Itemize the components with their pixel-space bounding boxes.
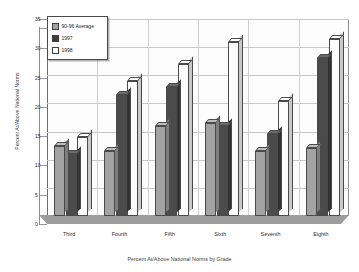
- legend-label: 1998: [62, 47, 73, 53]
- bar-face: [155, 126, 166, 216]
- bar-side: [166, 118, 170, 212]
- bar-side: [289, 93, 293, 212]
- bar-face: [306, 148, 317, 216]
- x-axis-tick-label: Fourth: [112, 231, 128, 237]
- y-axis-title: Percent At/Above National Norms: [14, 36, 20, 186]
- bar-side: [88, 130, 92, 212]
- legend-swatch-icon: [52, 47, 59, 54]
- category-separator: [299, 19, 300, 216]
- x-axis-tick-label: Third: [63, 231, 75, 237]
- plot-floor: [39, 215, 349, 224]
- y-axis-tick-label: 35: [35, 16, 39, 22]
- bar-side: [189, 56, 193, 212]
- bar-face: [54, 146, 65, 216]
- legend-swatch-icon: [52, 23, 59, 30]
- tick-connector: [39, 195, 47, 196]
- bar-face: [255, 151, 266, 216]
- bar-group: [148, 19, 198, 216]
- bar-side: [65, 138, 69, 212]
- bar-side: [266, 144, 270, 212]
- y-axis-tick-label: 10: [35, 162, 39, 168]
- category-separator: [148, 19, 149, 216]
- bar-side: [138, 73, 142, 212]
- bar-side: [228, 118, 232, 212]
- y-axis-tick-label: 30: [35, 45, 39, 51]
- bar-side: [77, 146, 81, 212]
- x-axis-title: Percent At/Above National Norms by Grade: [0, 256, 359, 262]
- bar-side: [239, 34, 243, 212]
- legend-item: 1997: [52, 32, 107, 44]
- bar: [255, 151, 266, 216]
- y-axis-tick-label: 20: [35, 104, 39, 110]
- chart-title-remnant: [150, 0, 270, 9]
- x-axis-tick-label: Eighth: [313, 231, 328, 237]
- bar-side: [278, 127, 282, 212]
- tick-connector: [39, 224, 47, 225]
- legend-label: 1997: [62, 35, 73, 41]
- bar-face: [205, 123, 216, 216]
- bar-face: [104, 151, 115, 216]
- bar: [205, 123, 216, 216]
- category-separator: [198, 19, 199, 216]
- legend-item: 90-96 Average: [52, 20, 107, 32]
- y-axis-tick-label: 0: [35, 221, 39, 227]
- bar-group: [248, 19, 298, 216]
- bar-chart: Percent At/Above National Norms 05101520…: [0, 0, 359, 272]
- category-separator: [248, 19, 249, 216]
- bar: [306, 148, 317, 216]
- bar: [155, 126, 166, 216]
- bar-side: [177, 79, 181, 212]
- chart-legend: 90-96 Average 1997 1998: [47, 16, 108, 60]
- y-axis-tick-label: 15: [35, 133, 39, 139]
- legend-label: 90-96 Average: [62, 23, 94, 29]
- bar-side: [127, 87, 131, 212]
- x-axis-tick-label: Sixth: [214, 231, 226, 237]
- bar-side: [115, 144, 119, 212]
- legend-item: 1998: [52, 44, 107, 56]
- bar-side: [216, 116, 220, 212]
- y-axis-tick-label: 25: [35, 75, 39, 81]
- bar-group: [198, 19, 248, 216]
- bar-side: [317, 141, 321, 212]
- bar-group: [299, 19, 349, 216]
- bar: [104, 151, 115, 216]
- bar-side: [328, 51, 332, 212]
- bar: [54, 146, 65, 216]
- y-axis-tick-label: 5: [35, 192, 39, 198]
- x-axis-tick-label: Fifth: [165, 231, 175, 237]
- bar-side: [340, 31, 344, 212]
- legend-swatch-icon: [52, 35, 59, 42]
- x-axis-tick-label: Seventh: [261, 231, 281, 237]
